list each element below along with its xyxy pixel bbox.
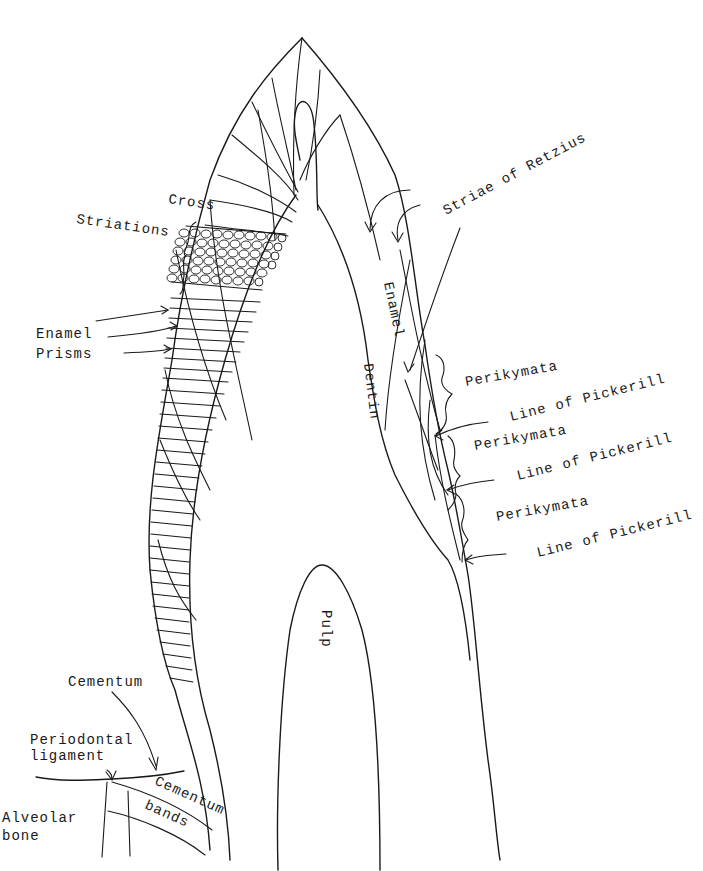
tooth-outline — [149, 38, 500, 860]
tooth-section-diagram: Cross Striations Enamel Prisms Striae of… — [0, 0, 703, 871]
label-perikymata-2: Perikymata — [473, 422, 568, 454]
enamel-rods-cusp — [205, 38, 340, 240]
label-enamel-prisms-2: Prisms — [36, 346, 92, 362]
label-line-of-pickerill-1: Line of Pickerill — [508, 371, 667, 425]
striae-of-retzius-lines — [340, 115, 460, 560]
label-enamel-prisms-1: Enamel — [36, 326, 92, 342]
label-alveolar-bone-2: bone — [2, 828, 40, 844]
label-periodontal-ligament-1: Periodontal — [30, 732, 133, 748]
label-pulp: Pulp — [318, 610, 334, 648]
annotation-marks — [96, 190, 506, 780]
label-striae-of-retzius: Striae of Retzius — [440, 129, 589, 218]
label-enamel: Enamel — [380, 281, 407, 340]
labels: Cross Striations Enamel Prisms Striae of… — [2, 129, 694, 844]
label-periodontal-ligament-2: ligament — [30, 748, 105, 764]
label-cross-striations-2: Striations — [75, 211, 170, 240]
label-cementum: Cementum — [68, 674, 143, 690]
label-perikymata-1: Perikymata — [464, 358, 559, 390]
perikymata-brace-1 — [436, 355, 452, 434]
dentin-outline — [190, 102, 470, 860]
label-cross-striations-1: Cross — [167, 191, 216, 213]
label-perikymata-3: Perikymata — [495, 493, 590, 525]
label-line-of-pickerill-3: Line of Pickerill — [535, 507, 694, 561]
label-dentin: Dentin — [360, 363, 383, 421]
label-alveolar-bone-1: Alveolar — [2, 810, 77, 826]
